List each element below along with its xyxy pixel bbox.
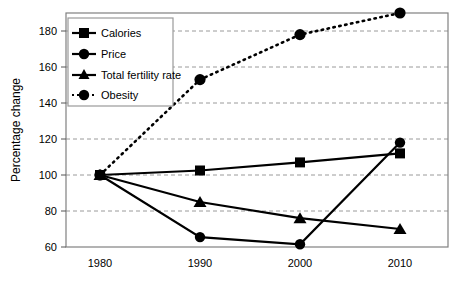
circle-marker-icon (395, 137, 405, 147)
square-marker-icon (195, 166, 205, 176)
circle-marker-icon (295, 239, 305, 249)
y-axis-ticks (61, 31, 66, 247)
square-marker-icon (395, 148, 405, 158)
legend-item-obesity[interactable]: Obesity (72, 89, 139, 101)
circle-marker-icon (195, 232, 205, 242)
y-tick-label-100: 100 (39, 169, 57, 181)
y-tick-label-140: 140 (39, 97, 57, 109)
legend: Calories Price Total fertility rate Obes… (68, 18, 181, 106)
line-chart: 180 160 140 120 100 80 60 Percentage cha… (0, 0, 456, 281)
y-tick-label-120: 120 (39, 133, 57, 145)
y-tick-label-80: 80 (45, 205, 57, 217)
square-marker-icon (295, 157, 305, 167)
dotted-circle-marker-icon (79, 90, 89, 100)
chart-container: 180 160 140 120 100 80 60 Percentage cha… (0, 0, 456, 281)
y-axis-title: Percentage change (9, 78, 23, 182)
y-tick-label-160: 160 (39, 61, 57, 73)
circle-marker-icon (394, 7, 405, 18)
circle-marker-icon (79, 49, 89, 59)
circle-marker-icon (94, 169, 105, 180)
x-tick-label-2000: 2000 (288, 257, 312, 269)
legend-label-price: Price (101, 48, 126, 60)
x-tick-label-1980: 1980 (88, 257, 112, 269)
legend-label-total-fertility-rate: Total fertility rate (101, 69, 181, 81)
x-tick-label-1990: 1990 (188, 257, 212, 269)
y-tick-label-60: 60 (45, 241, 57, 253)
legend-label-obesity: Obesity (101, 89, 139, 101)
y-tick-label-180: 180 (39, 25, 57, 37)
legend-item-calories[interactable]: Calories (72, 27, 142, 39)
circle-marker-icon (294, 29, 305, 40)
square-marker-icon (79, 28, 89, 38)
x-tick-label-2010: 2010 (388, 257, 412, 269)
legend-label-calories: Calories (101, 27, 142, 39)
circle-marker-icon (194, 74, 205, 85)
